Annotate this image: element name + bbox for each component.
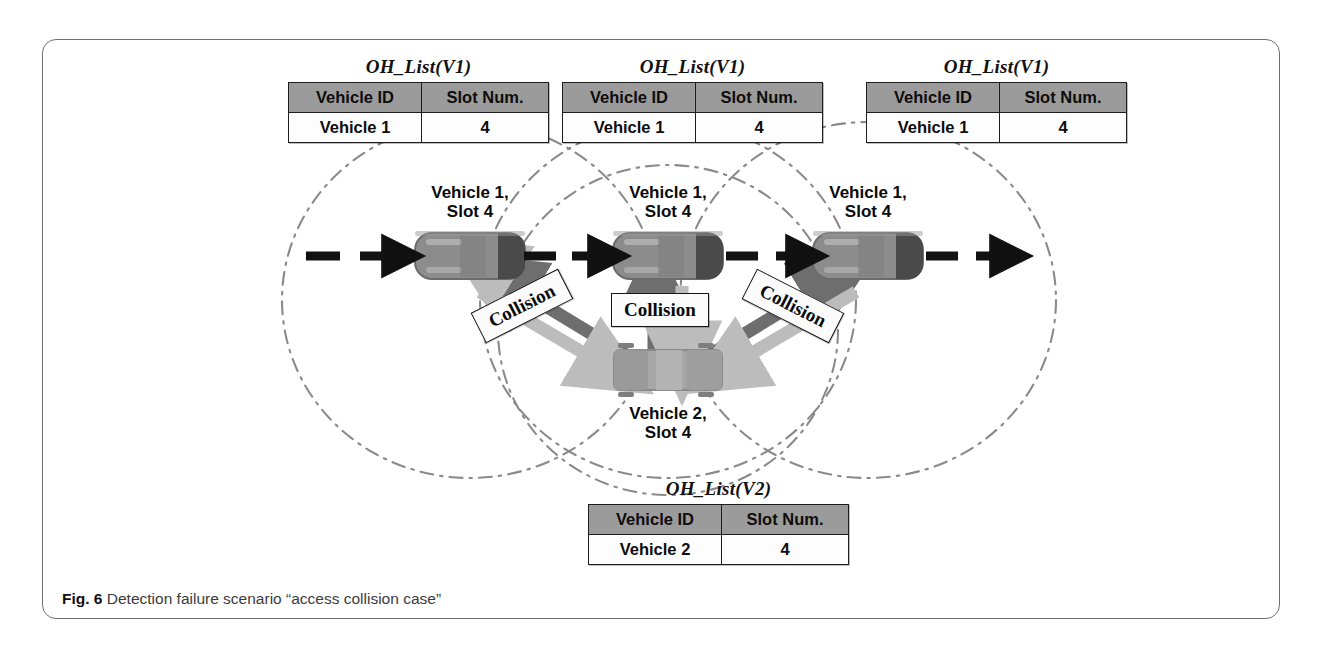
oh-list-table-center: OH_List(V1) Vehicle ID Slot Num. Vehicle… xyxy=(562,56,823,143)
cell-vehicle-id: Vehicle 1 xyxy=(563,113,696,143)
vehicle-truck-bottom xyxy=(614,343,722,397)
header-vehicle-id: Vehicle ID xyxy=(289,83,422,113)
vehicle-car-left xyxy=(415,231,525,279)
table-row: Vehicle 2 4 xyxy=(589,535,849,565)
header-vehicle-id: Vehicle ID xyxy=(867,83,1000,113)
cell-vehicle-id: Vehicle 1 xyxy=(867,113,1000,143)
oh-list-table-left: OH_List(V1) Vehicle ID Slot Num. Vehicle… xyxy=(288,56,549,143)
figure-root: OH_List(V1) Vehicle ID Slot Num. Vehicle… xyxy=(0,0,1320,653)
vehicle-label-right: Vehicle 1, Slot 4 xyxy=(780,183,956,221)
table-bottom: Vehicle ID Slot Num. Vehicle 2 4 xyxy=(588,504,849,565)
table-right: Vehicle ID Slot Num. Vehicle 1 4 xyxy=(866,82,1127,143)
header-vehicle-id: Vehicle ID xyxy=(563,83,696,113)
table-row: Vehicle 1 4 xyxy=(867,113,1127,143)
header-slot-num: Slot Num. xyxy=(696,83,823,113)
vehicle-car-center xyxy=(613,231,723,279)
oh-list-title-center: OH_List(V1) xyxy=(562,56,823,78)
oh-list-title-left: OH_List(V1) xyxy=(288,56,549,78)
cell-vehicle-id: Vehicle 1 xyxy=(289,113,422,143)
cell-slot-num: 4 xyxy=(696,113,823,143)
table-header-row: Vehicle ID Slot Num. xyxy=(589,505,849,535)
header-vehicle-id: Vehicle ID xyxy=(589,505,722,535)
table-header-row: Vehicle ID Slot Num. xyxy=(867,83,1127,113)
header-slot-num: Slot Num. xyxy=(722,505,849,535)
table-left: Vehicle ID Slot Num. Vehicle 1 4 xyxy=(288,82,549,143)
vehicle-label-bottom: Vehicle 2, Slot 4 xyxy=(580,404,756,442)
header-slot-num: Slot Num. xyxy=(1000,83,1127,113)
caption-text: Detection failure scenario “access colli… xyxy=(107,590,441,607)
oh-list-table-bottom: OH_List(V2) Vehicle ID Slot Num. Vehicle… xyxy=(588,478,849,565)
vehicle-label-left: Vehicle 1, Slot 4 xyxy=(382,183,558,221)
oh-list-title-right: OH_List(V1) xyxy=(866,56,1127,78)
figure-caption: Fig. 6 Detection failure scenario “acces… xyxy=(62,590,441,608)
cell-slot-num: 4 xyxy=(422,113,549,143)
table-header-row: Vehicle ID Slot Num. xyxy=(289,83,549,113)
caption-label: Fig. 6 xyxy=(62,590,102,607)
table-center: Vehicle ID Slot Num. Vehicle 1 4 xyxy=(562,82,823,143)
cell-slot-num: 4 xyxy=(1000,113,1127,143)
table-row: Vehicle 1 4 xyxy=(289,113,549,143)
cell-slot-num: 4 xyxy=(722,535,849,565)
table-row: Vehicle 1 4 xyxy=(563,113,823,143)
oh-list-table-right: OH_List(V1) Vehicle ID Slot Num. Vehicle… xyxy=(866,56,1127,143)
vehicle-car-right xyxy=(813,231,923,279)
header-slot-num: Slot Num. xyxy=(422,83,549,113)
table-header-row: Vehicle ID Slot Num. xyxy=(563,83,823,113)
vehicle-label-center: Vehicle 1, Slot 4 xyxy=(580,183,756,221)
oh-list-title-bottom: OH_List(V2) xyxy=(588,478,849,500)
cell-vehicle-id: Vehicle 2 xyxy=(589,535,722,565)
collision-label-center: Collision xyxy=(611,293,709,327)
